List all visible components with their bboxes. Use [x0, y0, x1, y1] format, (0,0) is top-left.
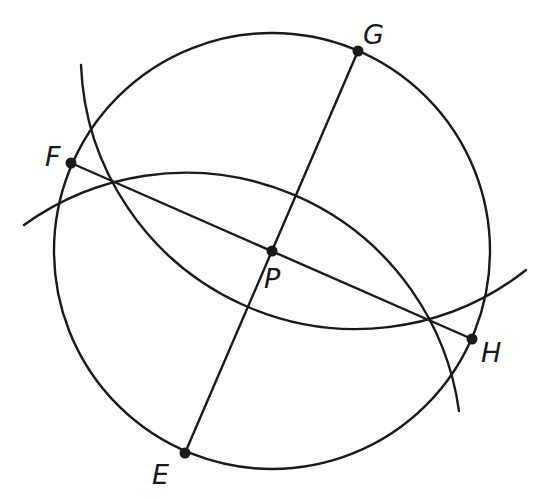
arc-centered-e: [24, 173, 459, 411]
point-h: [467, 334, 478, 345]
point-e: [180, 448, 191, 459]
label-e: E: [152, 459, 169, 490]
point-f: [66, 158, 77, 169]
label-f: F: [45, 141, 61, 172]
point-p: [267, 246, 278, 257]
label-h: H: [481, 337, 501, 368]
point-g: [353, 46, 364, 57]
geometry-diagram: E F G H P: [0, 0, 536, 499]
label-p: P: [264, 263, 281, 294]
label-g: G: [363, 19, 384, 50]
